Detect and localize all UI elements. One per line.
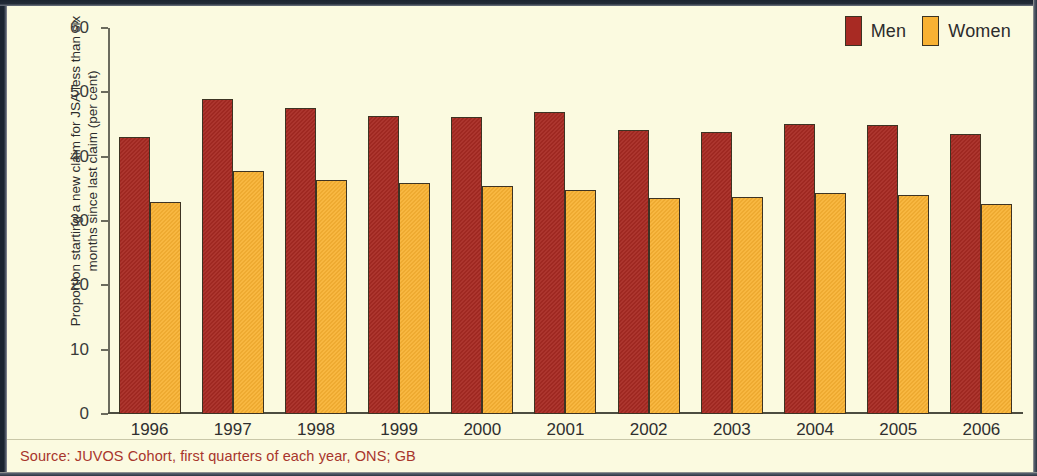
y-tick-mark: 30 — [101, 220, 108, 222]
bar-women-2001[interactable] — [565, 190, 596, 414]
bar-group: 2001 — [524, 28, 607, 414]
bar-men-1997[interactable] — [202, 99, 233, 414]
x-tick-label: 2003 — [690, 420, 773, 440]
x-tick-label: 2006 — [940, 420, 1023, 440]
y-tick-label: 0 — [80, 404, 89, 424]
bar-men-2006[interactable] — [950, 134, 981, 414]
frame-border-left — [0, 0, 7, 476]
y-tick-mark: 60 — [101, 27, 108, 29]
y-tick-label: 20 — [70, 275, 89, 295]
y-tick-label: 30 — [70, 211, 89, 231]
bar-women-2002[interactable] — [649, 198, 680, 414]
bar-group: 2002 — [607, 28, 690, 414]
plot-panel: MenWomen Proportion starting a new claim… — [7, 6, 1033, 440]
y-tick-mark: 10 — [101, 349, 108, 351]
frame-border-bottom — [0, 472, 1037, 476]
y-tick-mark: 20 — [101, 284, 108, 286]
y-tick-label: 40 — [70, 147, 89, 167]
bar-group: 1998 — [274, 28, 357, 414]
y-tick-mark: 40 — [101, 156, 108, 158]
bar-group: 1999 — [358, 28, 441, 414]
bar-women-1997[interactable] — [233, 171, 264, 414]
bar-group: 2000 — [441, 28, 524, 414]
bar-women-1998[interactable] — [316, 180, 347, 414]
bar-men-2000[interactable] — [451, 117, 482, 414]
bar-men-2004[interactable] — [784, 124, 815, 414]
y-tick-label: 60 — [70, 18, 89, 38]
bar-men-1999[interactable] — [368, 116, 399, 415]
frame-border-right — [1033, 0, 1037, 476]
x-tick-label: 1999 — [358, 420, 441, 440]
bar-women-1996[interactable] — [150, 202, 181, 414]
x-tick-label: 1996 — [108, 420, 191, 440]
x-tick-label: 2002 — [607, 420, 690, 440]
y-tick-mark: 50 — [101, 91, 108, 93]
x-tick-label: 2000 — [441, 420, 524, 440]
bar-men-1996[interactable] — [119, 137, 150, 414]
bar-women-2005[interactable] — [898, 195, 929, 414]
x-tick-label: 2004 — [773, 420, 856, 440]
bar-group: 1996 — [108, 28, 191, 414]
y-tick-label: 10 — [70, 340, 89, 360]
chart-figure: MenWomen Proportion starting a new claim… — [0, 0, 1037, 476]
bar-group: 2005 — [857, 28, 940, 414]
bar-men-2005[interactable] — [867, 125, 898, 414]
bar-men-1998[interactable] — [285, 108, 316, 414]
bar-men-2002[interactable] — [618, 130, 649, 414]
source-strip: Source: JUVOS Cohort, first quarters of … — [7, 439, 1033, 472]
x-tick-label: 2001 — [524, 420, 607, 440]
x-tick-label: 1998 — [274, 420, 357, 440]
bar-women-2004[interactable] — [815, 193, 846, 414]
bar-group: 1997 — [191, 28, 274, 414]
chart-axes: 0102030405060 19961997199819992000200120… — [108, 28, 1023, 414]
bar-women-2000[interactable] — [482, 186, 513, 414]
x-tick-label: 2005 — [857, 420, 940, 440]
bar-groups: 1996199719981999200020012002200320042005… — [108, 28, 1023, 414]
y-tick-label: 50 — [70, 82, 89, 102]
y-tick-mark: 0 — [101, 413, 108, 415]
bar-women-1999[interactable] — [399, 183, 430, 414]
bar-group: 2003 — [690, 28, 773, 414]
x-tick-label: 1997 — [191, 420, 274, 440]
bar-women-2003[interactable] — [732, 197, 763, 414]
bar-men-2001[interactable] — [534, 112, 565, 414]
bar-men-2003[interactable] — [701, 132, 732, 414]
source-note: Source: JUVOS Cohort, first quarters of … — [7, 448, 416, 464]
bar-group: 2004 — [773, 28, 856, 414]
bar-group: 2006 — [940, 28, 1023, 414]
bar-women-2006[interactable] — [981, 204, 1012, 414]
